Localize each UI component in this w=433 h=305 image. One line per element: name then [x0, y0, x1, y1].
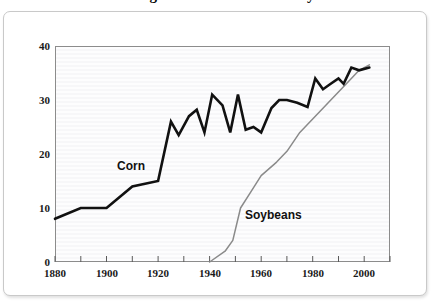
series-label-soybeans: Soybeans	[245, 208, 302, 222]
y-tick-label-30: 30	[18, 95, 50, 106]
x-tick-label-1980: 1980	[290, 268, 336, 279]
y-tick-label-40: 40	[18, 41, 50, 52]
x-tick-label-1940: 1940	[187, 268, 233, 279]
line-chart: 40 30 20 10 0 1880 1900 1920 1940 1960 1…	[0, 0, 433, 305]
x-axis-tick-marks	[55, 256, 390, 262]
plot-canvas	[55, 46, 390, 262]
x-tick-label-1880: 1880	[32, 268, 78, 279]
series-line-soybeans	[210, 65, 370, 262]
x-tick-label-1900: 1900	[84, 268, 130, 279]
series-label-corn: Corn	[117, 159, 145, 173]
y-tick-label-20: 20	[18, 149, 50, 160]
y-tick-label-10: 10	[18, 203, 50, 214]
x-tick-label-2000: 2000	[341, 268, 387, 279]
series-line-corn	[55, 68, 369, 219]
x-tick-label-1920: 1920	[135, 268, 181, 279]
x-tick-label-1960: 1960	[238, 268, 284, 279]
